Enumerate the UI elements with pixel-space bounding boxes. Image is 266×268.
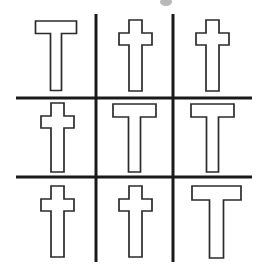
marker-dot-icon [160,0,172,6]
letter-t-icon [36,21,77,91]
puzzle-canvas [0,0,266,268]
cell-bottom-left[interactable] [41,186,74,257]
letter-t-icon [191,104,234,172]
cell-middle-center[interactable] [113,104,156,172]
cell-middle-right[interactable] [191,104,234,172]
cell-top-center[interactable] [119,20,152,91]
cell-top-left[interactable] [36,21,77,91]
latin-cross-icon [196,20,229,91]
latin-cross-icon [41,186,74,257]
latin-cross-icon [119,186,152,257]
cell-bottom-center[interactable] [119,186,152,257]
latin-cross-icon [119,20,152,91]
latin-cross-icon [41,103,74,172]
letter-t-icon [192,186,241,258]
letter-t-icon [113,104,156,172]
grid-figure [0,0,266,268]
cell-top-right[interactable] [196,20,229,91]
cell-middle-left[interactable] [41,103,74,172]
cell-bottom-right[interactable] [192,186,241,258]
